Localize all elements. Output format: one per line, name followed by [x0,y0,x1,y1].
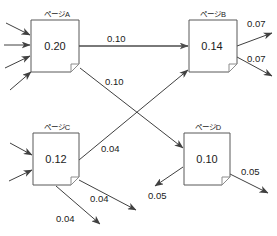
diagram-canvas: ページA 0.20 ページB 0.14 ページC 0.12 ページD 0.10 … [0,0,277,236]
edge-label-d-out-right: 0.05 [241,166,260,177]
edge-b-out-1 [237,33,272,46]
edge-d-out-left [155,167,183,186]
node-b-value: 0.14 [201,40,222,52]
node-a-value: 0.20 [44,40,65,52]
incoming-arrows-page-a [4,23,31,90]
pagerank-diagram: ページA 0.20 ページB 0.14 ページC 0.12 ページD 0.10 … [0,0,277,236]
node-page-a[interactable]: ページA 0.20 [31,10,79,72]
node-page-b[interactable]: ページB 0.14 [189,10,237,72]
incoming-arrow-a-1 [6,23,30,35]
edge-a-to-d [80,68,183,148]
incoming-arrow-a-4 [10,72,31,90]
incoming-arrow-c-1 [10,143,32,155]
incoming-arrows-page-c [9,143,32,181]
incoming-arrow-c-2 [9,170,32,181]
node-d-fold-icon [222,177,230,185]
node-d-title: ページD [195,123,222,132]
node-b-fold-icon [229,64,237,72]
node-page-c[interactable]: ページC 0.12 [33,123,79,185]
incoming-arrow-a-3 [5,56,30,68]
edge-label-b-out-2: 0.07 [247,53,266,64]
node-c-fold-icon [71,177,79,185]
edge-label-d-out-left: 0.05 [148,190,167,201]
node-a-title: ページA [44,10,70,19]
node-d-value: 0.10 [196,153,217,165]
edge-label-a-to-b: 0.10 [107,33,126,44]
edge-label-c-to-b: 0.04 [101,143,120,154]
node-a-fold-icon [71,64,79,72]
edge-label-c-out-1: 0.04 [90,193,109,204]
edge-c-to-b [79,70,188,160]
edge-label-a-to-d: 0.10 [105,76,124,87]
edge-label-c-out-2: 0.04 [56,213,75,224]
node-page-d[interactable]: ページD 0.10 [184,123,230,185]
node-c-value: 0.12 [45,153,66,165]
edge-label-b-out-1: 0.07 [247,18,266,29]
node-b-title: ページB [200,10,226,19]
node-c-title: ページC [44,123,71,132]
